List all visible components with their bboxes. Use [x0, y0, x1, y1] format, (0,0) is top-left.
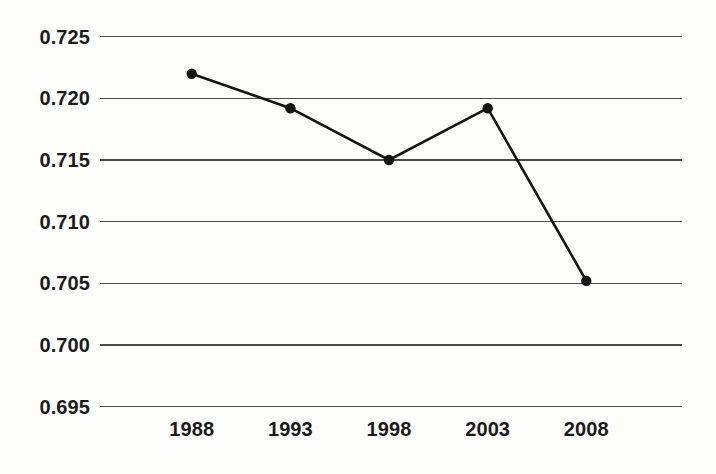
line-chart: 0.725 0.720 0.715 0.710 0.705 0.700 0.69…: [0, 0, 716, 474]
gridlines: [100, 37, 682, 407]
data-point-1998[interactable]: [384, 155, 394, 165]
chart-page: 0.725 0.720 0.715 0.710 0.705 0.700 0.69…: [0, 0, 716, 474]
data-point-2008[interactable]: [581, 276, 591, 286]
data-point-2003[interactable]: [483, 103, 493, 113]
plot-area: [0, 0, 716, 474]
series-line: [192, 74, 587, 281]
data-point-1993[interactable]: [285, 103, 295, 113]
data-point-1988[interactable]: [187, 69, 197, 79]
data-series: [187, 69, 592, 287]
